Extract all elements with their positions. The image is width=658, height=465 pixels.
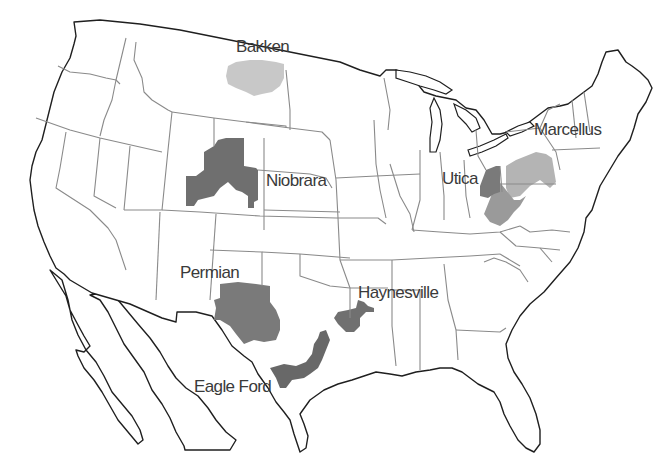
us-outline <box>30 20 652 452</box>
label-bakken: Bakken <box>236 37 289 56</box>
label-permian: Permian <box>180 263 239 282</box>
label-haynesville: Haynesville <box>358 283 438 302</box>
label-utica: Utica <box>442 169 479 188</box>
label-eagle-ford: Eagle Ford <box>194 377 271 396</box>
label-marcellus: Marcellus <box>534 120 601 139</box>
label-niobrara: Niobrara <box>266 171 328 190</box>
shale-plays-map: Bakken Niobrara Marcellus Utica Permian … <box>0 0 658 465</box>
